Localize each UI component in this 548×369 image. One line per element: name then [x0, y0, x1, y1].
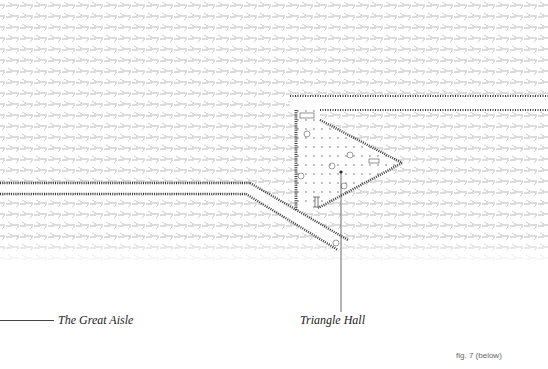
- great-aisle-label: The Great Aisle: [58, 313, 133, 328]
- triangle-hall-label: Triangle Hall: [300, 313, 365, 328]
- top-corridor: [290, 96, 548, 110]
- great-aisle-leader: [0, 320, 54, 321]
- hatched-field: [0, 0, 548, 262]
- figure-caption: fig. 7 (below): [456, 351, 502, 360]
